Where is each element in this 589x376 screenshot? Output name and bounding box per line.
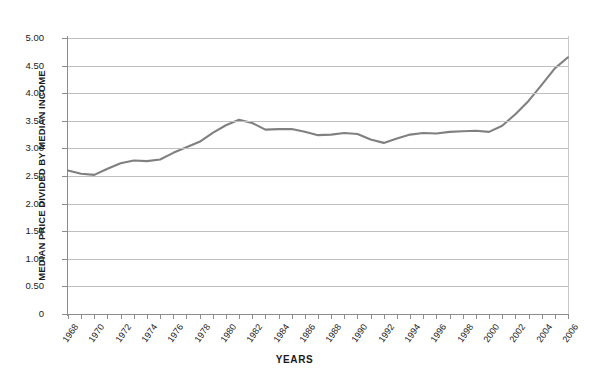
- gridline-y: [68, 231, 568, 232]
- gridline-y: [68, 66, 568, 67]
- x-axis-tick: [371, 314, 372, 319]
- y-axis-tick-label: 2.00: [0, 198, 44, 209]
- y-axis-tick-label: 3.50: [0, 115, 44, 126]
- x-axis-tick: [397, 314, 398, 319]
- y-axis-tick-label: 1.00: [0, 253, 44, 264]
- gridline-y: [68, 176, 568, 177]
- y-axis-tick: [62, 231, 67, 232]
- y-axis-tick-label: 0: [0, 308, 44, 319]
- x-axis-tick: [463, 314, 464, 319]
- x-axis-tick: [410, 314, 411, 319]
- gridline-y: [68, 121, 568, 122]
- x-axis-tick: [68, 314, 69, 319]
- x-axis-tick: [436, 314, 437, 319]
- y-axis-tick: [62, 314, 67, 315]
- x-axis-tick: [107, 314, 108, 319]
- x-axis-tick: [357, 314, 358, 319]
- series-line-median-price-ratio: [68, 57, 568, 175]
- x-axis-tick: [476, 314, 477, 319]
- y-axis-tick-label: 4.00: [0, 87, 44, 98]
- x-axis-tick: [502, 314, 503, 319]
- y-axis-tick-label: 3.00: [0, 142, 44, 153]
- x-axis-tick: [81, 314, 82, 319]
- x-axis-tick: [318, 314, 319, 319]
- x-axis-tick: [384, 314, 385, 319]
- plot-area: 00.501.001.502.002.503.003.504.004.505.0…: [68, 38, 568, 314]
- x-axis-tick: [344, 314, 345, 319]
- x-axis-tick: [555, 314, 556, 319]
- gridline-y: [68, 204, 568, 205]
- gridline-y: [68, 93, 568, 94]
- x-axis-tick: [279, 314, 280, 319]
- y-axis-tick-label: 4.50: [0, 60, 44, 71]
- y-axis-tick: [62, 148, 67, 149]
- y-axis-tick-label: 0.50: [0, 280, 44, 291]
- x-axis-tick: [160, 314, 161, 319]
- y-axis-tick-label: 2.50: [0, 170, 44, 181]
- gridline-y: [68, 148, 568, 149]
- x-axis-tick: [568, 314, 569, 319]
- x-axis-tick: [529, 314, 530, 319]
- y-axis-tick: [62, 204, 67, 205]
- x-axis-tick: [265, 314, 266, 319]
- y-axis-tick: [62, 121, 67, 122]
- y-axis-tick: [62, 38, 67, 39]
- x-axis-tick: [489, 314, 490, 319]
- x-axis-tick: [147, 314, 148, 319]
- x-axis-tick: [186, 314, 187, 319]
- x-axis-tick: [173, 314, 174, 319]
- x-axis-tick: [134, 314, 135, 319]
- y-axis-tick-label: 1.50: [0, 225, 44, 236]
- x-axis-tick: [305, 314, 306, 319]
- x-axis-tick: [239, 314, 240, 319]
- y-axis-tick: [62, 286, 67, 287]
- y-axis-tick: [62, 176, 67, 177]
- gridline-y: [68, 259, 568, 260]
- x-axis-tick: [450, 314, 451, 319]
- plot-right-border: [568, 36, 569, 316]
- x-axis-tick: [423, 314, 424, 319]
- y-axis-tick-label: 5.00: [0, 32, 44, 43]
- x-axis-title: YEARS: [0, 354, 589, 365]
- x-axis-tick: [94, 314, 95, 319]
- x-axis-tick: [213, 314, 214, 319]
- x-axis-tick: [292, 314, 293, 319]
- x-axis-tick: [226, 314, 227, 319]
- gridline-y: [68, 286, 568, 287]
- y-axis-tick: [62, 66, 67, 67]
- chart-container: HOUSE PRICE RATIO OF ALTERNATIVE HOUSING…: [0, 0, 589, 376]
- x-axis-tick: [121, 314, 122, 319]
- x-axis-tick: [515, 314, 516, 319]
- x-axis-tick: [252, 314, 253, 319]
- x-axis-tick: [331, 314, 332, 319]
- y-axis-tick: [62, 93, 67, 94]
- x-axis-tick: [200, 314, 201, 319]
- y-axis-tick: [62, 259, 67, 260]
- x-axis-tick: [542, 314, 543, 319]
- gridline-y: [68, 38, 568, 39]
